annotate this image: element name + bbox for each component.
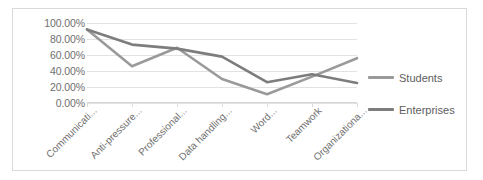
legend-line-swatch — [368, 108, 394, 111]
x-axis-tick-label-text: Teamwork — [284, 105, 324, 145]
chart-legend: StudentsEnterprises — [368, 71, 473, 135]
y-axis-tick-label: 80.00% — [50, 33, 85, 45]
y-axis-tick-label: 40.00% — [50, 65, 85, 77]
y-axis-tick-label: 100.00% — [44, 17, 85, 29]
y-axis-tick-label: 20.00% — [50, 81, 85, 93]
y-axis: 100.00%80.00%60.00%40.00%20.00%0.00% — [27, 23, 85, 103]
x-axis-tick-label-text: Word... — [248, 105, 278, 135]
legend-item-students[interactable]: Students — [368, 71, 473, 84]
y-axis-tick-label: 0.00% — [56, 97, 85, 109]
chart-frame: 100.00%80.00%60.00%40.00%20.00%0.00% Com… — [12, 8, 467, 171]
legend-item-enterprises[interactable]: Enterprises — [368, 103, 473, 116]
x-axis: Communicati...Anti-pressure...Profession… — [87, 105, 367, 167]
legend-line-swatch — [368, 76, 394, 79]
y-axis-tick-label: 60.00% — [50, 49, 85, 61]
series-line-students — [87, 29, 357, 94]
legend-label: Enterprises — [399, 104, 455, 116]
legend-label: Students — [399, 72, 442, 84]
